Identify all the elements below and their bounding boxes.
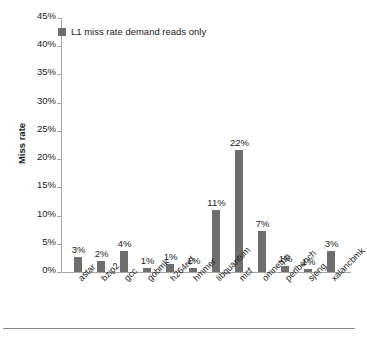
x-axis-labels: astarbzip2gccgobmkh264refhmmerlibquantum… (61, 272, 351, 334)
bar-group: 22% (228, 18, 251, 272)
bar (258, 231, 266, 272)
bar-group: 2% (90, 18, 113, 272)
y-axis-title: Miss rate (16, 104, 27, 184)
y-axis-tick-label: 25% (37, 124, 56, 134)
bar-group: 1% (297, 18, 320, 272)
y-axis-tick-label: 15% (37, 180, 56, 190)
bar-group: 7% (251, 18, 274, 272)
bar-group: 1% (182, 18, 205, 272)
y-axis-tick-label: 5% (42, 237, 56, 247)
y-axis-tick-label: 40% (37, 39, 56, 49)
plot-area: 3%2%4%1%1%1%11%22%7%1%1%3% (61, 18, 351, 272)
y-axis-tick-label: 0% (42, 265, 56, 275)
bar (120, 251, 128, 272)
bar-group: 3% (320, 18, 343, 272)
bar-value-label: 3% (316, 238, 347, 249)
bar-group: 1% (274, 18, 297, 272)
y-axis-tick-label: 10% (37, 209, 56, 219)
y-axis-tick-label: 30% (37, 96, 56, 106)
y-axis-tick-label: 20% (37, 152, 56, 162)
bottom-divider (3, 328, 355, 329)
bar-group: 4% (113, 18, 136, 272)
bar-group: 1% (159, 18, 182, 272)
y-axis-tick-label: 45% (37, 11, 56, 21)
bar-group: 3% (67, 18, 90, 272)
y-axis-tick-label: 35% (37, 67, 56, 77)
bar (327, 251, 335, 272)
bar-group: 1% (136, 18, 159, 272)
